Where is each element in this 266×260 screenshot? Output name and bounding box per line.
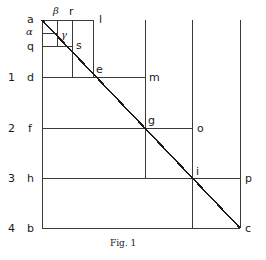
axis-number-label: 2 <box>8 123 15 134</box>
figure-container: 1234aqdfhbαβγrslemgoipc Fig. 1 <box>0 0 266 260</box>
vertex-label: c <box>245 223 251 234</box>
inner-segment-label: r <box>69 6 74 17</box>
vertex-label: i <box>196 166 199 177</box>
figure-caption: Fig. 1 <box>110 238 136 248</box>
greek-angle-label: α <box>26 27 33 37</box>
vertex-label-left: a <box>27 14 34 25</box>
vertex-label: g <box>148 115 155 126</box>
diagonal-line <box>42 20 240 228</box>
inner-segment-label: s <box>76 40 82 51</box>
greek-angle-label: β <box>53 6 59 16</box>
figure-drawing <box>0 0 266 260</box>
axis-number-label: 4 <box>8 223 15 234</box>
vertex-label-left: h <box>27 173 34 184</box>
vertex-label: e <box>96 64 103 75</box>
vertex-label-left: b <box>27 223 34 234</box>
vertex-label-left: d <box>27 72 34 83</box>
vertex-label: o <box>197 123 204 134</box>
axis-number-label: 1 <box>8 72 15 83</box>
vertex-label: l <box>99 14 102 25</box>
vertex-label: p <box>245 173 252 184</box>
vertex-label: m <box>149 72 160 83</box>
greek-angle-label: γ <box>61 30 67 40</box>
vertex-label-left: q <box>27 41 34 52</box>
axis-number-label: 3 <box>8 173 15 184</box>
vertex-label-left: f <box>28 123 32 134</box>
